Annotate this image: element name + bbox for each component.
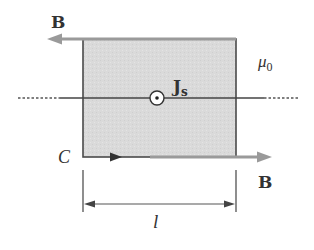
field-label-top: B [51,12,65,32]
loop-label: C [58,147,71,167]
length-dimension-arrow [84,201,235,208]
permeability-label: μ0 [257,52,273,74]
field-label-bottom: B [258,172,272,192]
length-label: l [153,211,158,232]
current-out-of-page-icon [150,91,164,105]
diagram-canvas: Js μ0 B B C l [0,0,314,250]
